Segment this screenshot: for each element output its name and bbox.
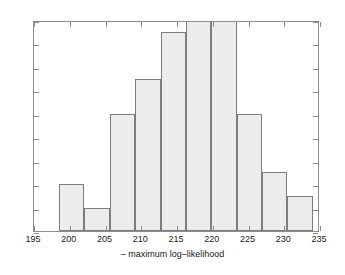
- x-axis-tick-label: 205: [97, 235, 112, 244]
- histogram-bar: [110, 114, 135, 231]
- histogram-bar: [161, 32, 186, 231]
- x-axis-tick: [141, 226, 142, 231]
- y-axis-tick: [34, 116, 39, 117]
- x-axis-tick-top: [177, 22, 178, 27]
- y-axis-tick-right: [313, 139, 318, 140]
- x-axis-tick-top: [249, 22, 250, 27]
- x-axis-tick: [106, 226, 107, 231]
- x-axis-tick-label: 230: [276, 235, 291, 244]
- y-axis-tick-right: [313, 92, 318, 93]
- plot-area: [33, 21, 319, 232]
- x-axis-tick: [213, 226, 214, 231]
- x-axis-tick-label: 215: [168, 235, 183, 244]
- y-axis-tick-right: [313, 69, 318, 70]
- x-axis-tick-top: [320, 22, 321, 27]
- y-axis-tick: [34, 186, 39, 187]
- x-axis-tick-label: 220: [204, 235, 219, 244]
- histogram-bar: [59, 184, 84, 231]
- y-axis-tick: [34, 139, 39, 140]
- histogram-bar: [211, 22, 236, 231]
- x-axis-tick-label: 210: [133, 235, 148, 244]
- histogram-figure: 024681012141618 195200205210215220225230…: [0, 0, 345, 275]
- y-axis-tick-right: [313, 116, 318, 117]
- x-axis-tick-top: [106, 22, 107, 27]
- y-axis-tick-right: [313, 22, 318, 23]
- x-axis-tick-label: 195: [25, 235, 40, 244]
- y-axis-tick: [34, 210, 39, 211]
- x-axis-title: – maximum log–likelihood: [0, 250, 345, 259]
- x-axis-tick: [34, 226, 35, 231]
- x-axis-tick: [70, 226, 71, 231]
- histogram-bar: [135, 79, 160, 231]
- histogram-bar: [186, 22, 211, 231]
- y-axis-tick-right: [313, 45, 318, 46]
- x-axis-tick: [177, 226, 178, 231]
- x-axis-tick-top: [70, 22, 71, 27]
- x-axis-tick: [320, 226, 321, 231]
- x-axis-tick: [249, 226, 250, 231]
- x-axis-tick-label: 200: [61, 235, 76, 244]
- y-axis-tick-right: [313, 210, 318, 211]
- x-axis-tick-top: [34, 22, 35, 27]
- y-axis-tick: [34, 163, 39, 164]
- x-axis-tick-top: [213, 22, 214, 27]
- y-axis-tick: [34, 69, 39, 70]
- x-axis-tick-top: [284, 22, 285, 27]
- x-axis-tick-label: 235: [311, 235, 326, 244]
- y-axis-tick: [34, 45, 39, 46]
- histogram-bar: [237, 114, 262, 231]
- x-axis-tick-label: 225: [240, 235, 255, 244]
- histogram-bar: [287, 196, 312, 231]
- x-axis-tick-top: [141, 22, 142, 27]
- y-axis-tick-right: [313, 163, 318, 164]
- y-axis-tick: [34, 92, 39, 93]
- histogram-bar: [262, 172, 287, 231]
- bars-layer: [34, 22, 318, 231]
- x-axis-tick: [284, 226, 285, 231]
- y-axis-tick-right: [313, 186, 318, 187]
